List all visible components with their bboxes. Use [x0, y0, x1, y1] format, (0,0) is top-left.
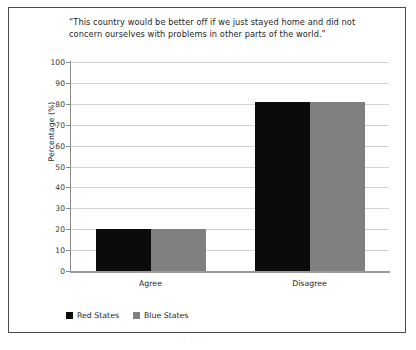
- y-axis-tick-mark: [66, 250, 70, 251]
- legend-swatch-icon: [133, 312, 140, 319]
- legend-item-red-states[interactable]: Red States: [66, 311, 119, 320]
- x-axis-tick-label: Disagree: [292, 279, 327, 288]
- plot-wrapper: Percentage (%) 0102030405060708090100 Ag…: [9, 8, 407, 334]
- scan-artifact: · ·· · ·· ·: [175, 339, 208, 346]
- y-axis-tick-label: 100: [25, 58, 65, 67]
- y-axis-tick-mark: [66, 187, 70, 188]
- bar-disagree-blue-states: [310, 102, 365, 271]
- legend-swatch-icon: [66, 312, 73, 319]
- y-axis-tick-labels: 0102030405060708090100: [17, 8, 65, 334]
- legend-label: Blue States: [144, 311, 188, 320]
- y-axis-tick-label: 60: [25, 141, 65, 150]
- y-axis-tick-mark: [66, 208, 70, 209]
- y-axis-tick-label: 10: [25, 246, 65, 255]
- y-axis-tick-mark: [66, 83, 70, 84]
- legend-item-blue-states[interactable]: Blue States: [133, 311, 188, 320]
- y-axis-tick-label: 90: [25, 78, 65, 87]
- x-axis-tick-label: Agree: [139, 279, 162, 288]
- y-axis-tick-label: 80: [25, 99, 65, 108]
- y-axis-tick-mark: [66, 167, 70, 168]
- y-axis-tick-mark: [66, 62, 70, 63]
- y-axis-tick-label: 40: [25, 183, 65, 192]
- chart-legend: Red StatesBlue States: [66, 311, 188, 320]
- legend-label: Red States: [77, 311, 119, 320]
- y-axis-tick-mark: [66, 271, 70, 272]
- gridline: [71, 83, 389, 84]
- bar-disagree-red-states: [255, 102, 310, 271]
- y-axis-tick-label: 70: [25, 120, 65, 129]
- chart-figure-frame: “This country would be better off if we …: [8, 7, 406, 333]
- y-axis-tick-label: 30: [25, 204, 65, 213]
- y-axis-tick-mark: [66, 125, 70, 126]
- y-axis-tick-mark: [66, 146, 70, 147]
- y-axis-tick-mark: [66, 229, 70, 230]
- y-axis-tick-label: 50: [25, 162, 65, 171]
- plot-area: [71, 62, 389, 271]
- x-axis-line: [70, 271, 390, 273]
- y-axis-tick-mark: [66, 104, 70, 105]
- gridline: [71, 62, 389, 63]
- y-axis-tick-label: 0: [25, 267, 65, 276]
- y-axis-tick-label: 20: [25, 225, 65, 234]
- bar-agree-red-states: [96, 229, 151, 271]
- bar-agree-blue-states: [151, 229, 206, 271]
